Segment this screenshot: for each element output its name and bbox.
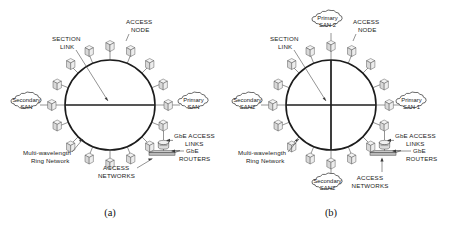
access-node: [348, 46, 356, 57]
cloud-label-line1: Secondary: [12, 97, 40, 103]
section-link-line1: SECTION: [52, 35, 81, 42]
gbe-access-links-line1: GbE ACCESS: [174, 132, 215, 139]
access-node: [367, 141, 375, 152]
access-node: [385, 100, 393, 111]
gbe-routers-line1: GbE: [186, 147, 199, 154]
access-node: [274, 79, 282, 90]
figure-container: Secondary SAN Primary SAN SECTION LINK A…: [0, 0, 453, 237]
panel-caption-b: (b): [325, 207, 338, 219]
cloud-label-line2: SAN: [20, 104, 32, 110]
access-networks-line2: NETWORKS: [352, 182, 389, 189]
access-node: [288, 59, 296, 70]
access-node: [306, 46, 314, 57]
access-node: [146, 141, 154, 152]
access-node: [127, 153, 135, 164]
access-node: [53, 79, 61, 90]
access-node: [367, 59, 375, 70]
access-node: [85, 46, 93, 57]
gbe-access-links-line1: GbE ACCESS: [395, 132, 436, 139]
access-node: [48, 100, 56, 111]
gbe-access-links-line2: LINKS: [406, 140, 425, 147]
access-node-line2: NODE: [131, 26, 149, 33]
access-node: [106, 41, 114, 52]
access-node: [288, 141, 296, 152]
cloud-label-line1: Primary: [317, 15, 337, 21]
section-link-line1: SECTION: [270, 35, 299, 42]
cloud-label-line2: SAN: [187, 104, 199, 110]
ring-label-line1: Multi-wavelength: [238, 149, 286, 156]
ring-label-line1: Multi-wavelength: [23, 149, 71, 156]
access-node: [127, 46, 135, 57]
panel-caption-a: (a): [104, 207, 116, 219]
access-node: [348, 153, 356, 164]
access-node: [380, 79, 388, 90]
gbe-router-icon: [379, 140, 389, 149]
access-node: [67, 59, 75, 70]
access-networks-line1: ACCESS: [357, 174, 383, 181]
access-node-line1: ACCESS: [353, 18, 379, 25]
gbe-router-icon: [158, 140, 168, 149]
ring-label-line2: Ring Network: [246, 157, 285, 164]
access-node: [327, 158, 335, 169]
access-networks-line1: ACCESS: [103, 164, 129, 171]
cloud-label-line1: Secondary: [233, 97, 261, 103]
cloud-label-line2: SAN2: [240, 104, 255, 110]
access-node: [85, 153, 93, 164]
access-node: [380, 120, 388, 131]
cloud-label-line1: Primary: [183, 97, 203, 103]
access-node: [164, 100, 172, 111]
access-node: [53, 120, 61, 131]
cloud-label-line2: SAN 2: [319, 22, 336, 28]
section-link-line2: LINK: [60, 43, 75, 50]
gbe-routers-line2: ROUTERS: [179, 155, 210, 162]
gbe-routers-line1: GbE: [413, 147, 426, 154]
ring-label-line2: Ring Network: [31, 157, 70, 164]
access-node: [159, 120, 167, 131]
gbe-access-links-line2: LINKS: [185, 140, 204, 147]
access-node: [159, 79, 167, 90]
access-node-line2: NODE: [358, 26, 376, 33]
access-node: [269, 100, 277, 111]
access-node: [146, 59, 154, 70]
cloud-label-line1: Secondary: [313, 178, 341, 184]
access-node: [327, 41, 335, 52]
access-node: [274, 120, 282, 131]
cloud-label-line1: Primary: [401, 97, 421, 103]
cloud-label-line2: SAN2: [320, 185, 335, 191]
access-node: [306, 153, 314, 164]
access-networks-line2: NETWORKS: [98, 172, 135, 179]
gbe-routers-line2: ROUTERS: [406, 155, 437, 162]
access-node-line1: ACCESS: [126, 18, 152, 25]
cloud-label-line2: SAN 1: [403, 104, 420, 110]
section-link-line2: LINK: [278, 43, 293, 50]
